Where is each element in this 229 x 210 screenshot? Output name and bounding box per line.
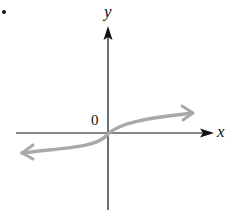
origin-label: 0 bbox=[91, 112, 99, 129]
y-axis-label: y bbox=[104, 2, 112, 22]
graph-canvas bbox=[0, 0, 229, 210]
x-axis-label: x bbox=[217, 122, 225, 142]
problem-marker-dot bbox=[2, 10, 6, 14]
